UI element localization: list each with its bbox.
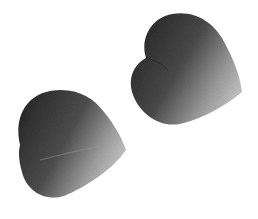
lower-left-petal [18, 90, 126, 198]
petals-image [0, 0, 258, 219]
upper-right-petal [131, 13, 242, 124]
